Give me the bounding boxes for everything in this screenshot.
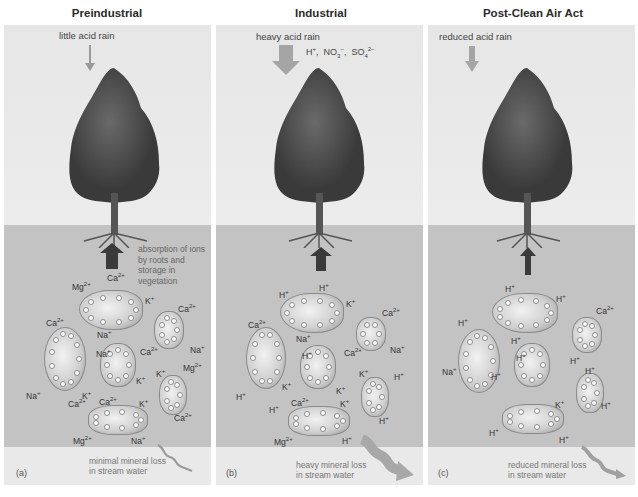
- negative-charge-icon: [289, 302, 295, 308]
- negative-charge-icon: [174, 402, 180, 408]
- negative-charge-icon: [317, 298, 323, 304]
- negative-charge-icon: [323, 375, 329, 381]
- negative-charge-icon: [128, 299, 134, 305]
- clay-particle: [514, 343, 550, 387]
- ion-label: Ca2+: [382, 307, 400, 318]
- negative-charge-icon: [537, 351, 543, 357]
- negative-charge-icon: [372, 340, 378, 346]
- ion-label: Na+: [26, 390, 40, 401]
- negative-charge-icon: [360, 331, 366, 337]
- panel-letter: (a): [16, 468, 27, 478]
- absorption-arrow-icon: [100, 243, 124, 269]
- negative-charge-icon: [115, 377, 121, 383]
- panel-industrial: heavy acid rain H+, NO3−, SO42− H+ H+ K+…: [216, 25, 423, 485]
- negative-charge-icon: [320, 410, 326, 416]
- negative-charge-icon: [376, 331, 382, 337]
- negative-charge-icon: [49, 349, 55, 355]
- ion-label: Mg2+: [73, 435, 92, 446]
- negative-charge-icon: [49, 363, 55, 369]
- negative-charge-icon: [171, 318, 177, 324]
- negative-charge-icon: [507, 419, 513, 425]
- negative-charge-icon: [93, 420, 99, 426]
- negative-charge-icon: [174, 382, 180, 388]
- negative-charge-icon: [53, 337, 59, 343]
- negative-charge-icon: [276, 355, 282, 361]
- negative-charge-icon: [591, 400, 597, 406]
- negative-charge-icon: [581, 396, 587, 402]
- clay-particle: [576, 373, 604, 413]
- negative-charge-icon: [116, 319, 122, 325]
- negative-charge-icon: [83, 307, 89, 313]
- ion-label: K+: [555, 399, 564, 410]
- negative-charge-icon: [585, 403, 591, 409]
- negative-charge-icon: [518, 423, 524, 429]
- ion-label: Ca2+: [248, 319, 266, 330]
- negative-charge-icon: [529, 377, 535, 383]
- ion-label: H+: [458, 317, 468, 328]
- ion-label: Ca2+: [291, 397, 309, 408]
- negative-charge-icon: [100, 319, 106, 325]
- panel-letter: (c): [438, 468, 449, 478]
- ion-label: H+: [570, 355, 580, 366]
- ion-label: H+: [302, 350, 312, 361]
- ion-label: Na+: [190, 344, 204, 355]
- negative-charge-icon: [315, 349, 321, 355]
- panel-title-industrial: Industrial: [216, 7, 426, 19]
- negative-charge-icon: [293, 421, 299, 427]
- negative-charge-icon: [533, 298, 539, 304]
- negative-charge-icon: [119, 425, 125, 431]
- negative-charge-icon: [74, 370, 80, 376]
- ion-label: H+: [556, 293, 566, 304]
- mineral-loss-label: heavy mineral lossin stream water: [296, 460, 366, 480]
- ion-label: K+: [359, 368, 368, 379]
- negative-charge-icon: [304, 411, 310, 417]
- negative-charge-icon: [250, 355, 256, 361]
- negative-charge-icon: [474, 333, 480, 339]
- negative-charge-icon: [317, 322, 323, 328]
- panel-preindustrial: little acid rain absorption of ions by r…: [4, 25, 211, 485]
- negative-charge-icon: [133, 412, 139, 418]
- panel-title-preindustrial: Preindustrial: [2, 7, 212, 19]
- negative-charge-icon: [329, 302, 335, 308]
- negative-charge-icon: [577, 327, 583, 333]
- ion-label: Ca2+: [174, 412, 192, 423]
- negative-charge-icon: [323, 353, 329, 359]
- negative-charge-icon: [76, 356, 82, 362]
- negative-charge-icon: [171, 336, 177, 342]
- ion-label: H+: [394, 371, 404, 382]
- negative-charge-icon: [474, 383, 480, 389]
- negative-charge-icon: [289, 318, 295, 324]
- negative-charge-icon: [540, 362, 546, 368]
- negative-charge-icon: [482, 335, 488, 341]
- negative-charge-icon: [334, 310, 340, 316]
- ion-label: Ca2+: [68, 398, 86, 409]
- negative-charge-icon: [592, 332, 598, 338]
- rain-label: reduced acid rain: [439, 31, 512, 42]
- negative-charge-icon: [100, 295, 106, 301]
- ion-label: K+: [282, 381, 291, 392]
- clay-particle: [572, 317, 602, 353]
- ion-label: Na+: [97, 329, 111, 340]
- ion-label: Ca2+: [344, 347, 362, 358]
- negative-charge-icon: [554, 416, 560, 422]
- negative-charge-icon: [107, 373, 113, 379]
- clay-particle: [492, 293, 558, 333]
- negative-charge-icon: [119, 409, 125, 415]
- negative-charge-icon: [577, 337, 583, 343]
- negative-charge-icon: [174, 327, 180, 333]
- tree-icon: [59, 63, 169, 248]
- tree-icon: [472, 63, 582, 248]
- ion-label: Na+: [296, 333, 310, 344]
- negative-charge-icon: [521, 373, 527, 379]
- negative-charge-icon: [548, 421, 554, 427]
- negative-charge-icon: [329, 318, 335, 324]
- negative-charge-icon: [116, 295, 122, 301]
- ion-label: K+: [336, 385, 345, 396]
- negative-charge-icon: [93, 414, 99, 420]
- negative-charge-icon: [53, 375, 59, 381]
- negative-charge-icon: [370, 407, 376, 413]
- clay-particle: [458, 329, 500, 393]
- negative-charge-icon: [533, 322, 539, 328]
- negative-charge-icon: [467, 339, 473, 345]
- negative-charge-icon: [315, 379, 321, 385]
